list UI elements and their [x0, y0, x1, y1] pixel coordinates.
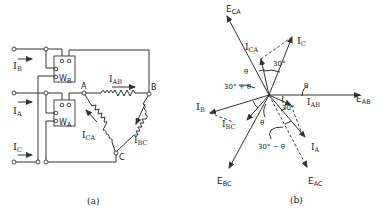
label-i-ca: ICA	[245, 42, 259, 54]
label-wattmeter-b: WB	[59, 74, 71, 85]
label-angle-30-top: 30°	[273, 60, 285, 68]
impedance-ab	[86, 90, 147, 96]
circuit-panel-a: IB IA IC WB WA A B C IAB ICA IBC (a)	[12, 47, 157, 206]
label-e-ab: EAB	[356, 94, 371, 106]
phasor-panel-b: ECA EAB EBC EAC IC ICA IB IBC IAB IA 30°…	[196, 4, 371, 205]
label-i-a: IA	[311, 142, 320, 154]
label-node-a: A	[81, 82, 87, 91]
terminals	[12, 47, 151, 164]
label-i-ab: IAB	[307, 97, 320, 109]
label-node-b: B	[151, 83, 157, 92]
phasor-i-ca	[261, 59, 269, 95]
caption-a: (a)	[87, 196, 99, 206]
label-line-current-a: IA	[13, 105, 22, 118]
caption-b: (b)	[290, 195, 303, 205]
phasor-i-a	[269, 95, 305, 137]
label-line-current-c: IC	[13, 141, 22, 154]
label-e-bc: EBC	[217, 176, 232, 188]
label-i-c: IC	[297, 35, 306, 48]
label-phase-current-bc: IBC	[134, 135, 147, 147]
label-theta-right: θ	[304, 82, 308, 90]
impedance-ca	[85, 95, 115, 151]
label-phase-current-ca: ICA	[82, 130, 96, 142]
label-theta-lower: θ	[260, 119, 264, 127]
label-i-b: IB	[196, 101, 205, 114]
label-wattmeter-a: WA	[59, 118, 72, 129]
label-angle-30-right: 30°	[282, 104, 294, 112]
label-line-current-b: IB	[13, 60, 22, 73]
label-e-ac: EAC	[308, 176, 323, 188]
label-angle-30-minus-theta: 30° − θ	[258, 143, 285, 151]
label-e-ca: ECA	[226, 4, 241, 16]
diagram-canvas: IB IA IC WB WA A B C IAB ICA IBC (a)	[0, 0, 385, 215]
label-node-c: C	[119, 153, 125, 162]
label-phase-current-ab: IAB	[109, 74, 122, 86]
phasor-e-bc	[229, 95, 269, 168]
label-angle-30-plus-theta: 30° + θ	[224, 83, 251, 91]
label-theta-top: θ	[244, 68, 248, 76]
